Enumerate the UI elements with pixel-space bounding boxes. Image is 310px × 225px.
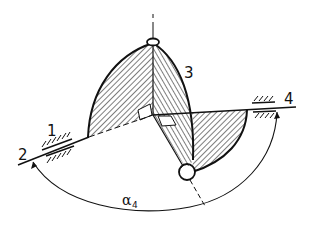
label-output-shaft: 4 [284, 90, 294, 108]
label-input-shaft: 2 [18, 146, 28, 164]
arrowhead-left [31, 162, 37, 169]
frame-bearing-right [252, 96, 276, 118]
right-lobe [192, 110, 247, 172]
ball-axis-line [190, 180, 205, 206]
label-coupler-link: 3 [184, 64, 194, 82]
label-angle-symbol: α [122, 192, 132, 208]
arrowhead-right [274, 112, 280, 119]
top-pivot-joint [147, 39, 159, 46]
label-angle-subscript: 4 [132, 200, 138, 210]
mechanism-diagram: 1 2 3 4 α 4 [0, 0, 310, 225]
left-lobe [88, 43, 153, 137]
ball-joint [179, 164, 195, 180]
label-frame-bearing: 1 [47, 122, 57, 140]
